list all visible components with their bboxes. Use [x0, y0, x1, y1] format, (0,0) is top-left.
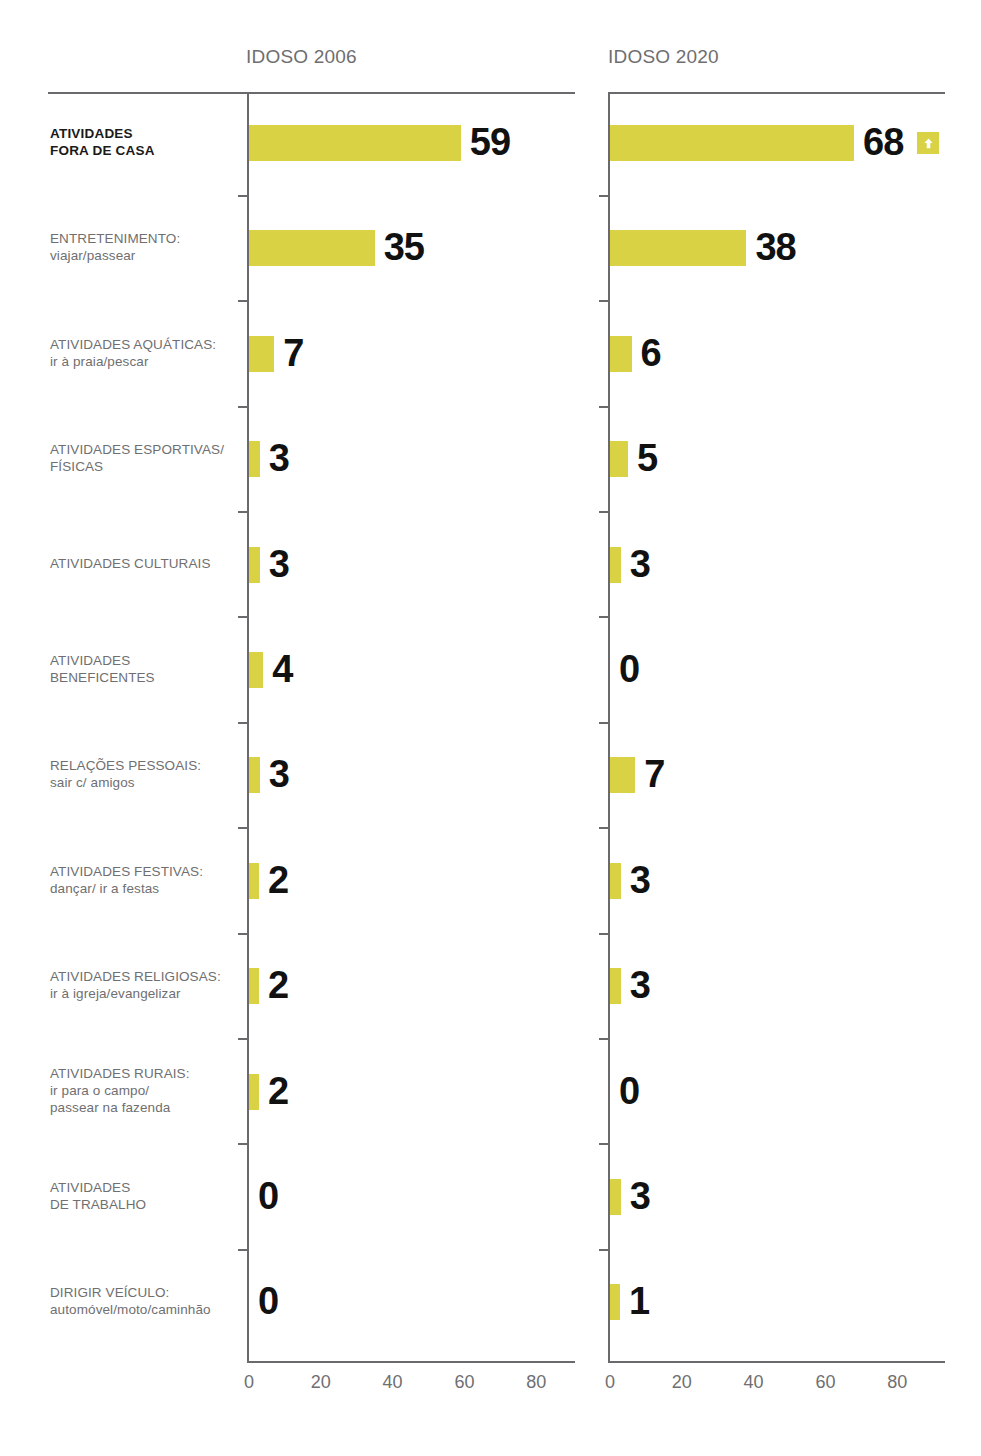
bar-value: 1: [629, 1282, 649, 1320]
y-axis-tick: [599, 616, 610, 618]
y-axis-tick: [599, 722, 610, 724]
bar-value: 35: [384, 228, 424, 266]
x-tick-label: 80: [877, 1372, 917, 1393]
row-label-line: ATIVIDADES CULTURAIS: [50, 555, 240, 572]
row-label-line: ir à igreja/evangelizar: [50, 985, 240, 1002]
bar-value: 7: [644, 755, 664, 793]
y-axis-tick: [599, 406, 610, 408]
bar: [610, 230, 746, 266]
row-label-line: RELAÇÕES PESSOAIS:: [50, 757, 240, 774]
bar: [610, 1284, 620, 1320]
bar: [249, 863, 259, 899]
row-label: ATIVIDADESFORA DE CASA: [50, 125, 240, 159]
bar: [610, 441, 628, 477]
row-label: ATIVIDADES CULTURAIS: [50, 555, 240, 572]
row-label-line: ATIVIDADES: [50, 652, 240, 669]
row-label-line: ir à praia/pescar: [50, 353, 240, 370]
row-label-line: DE TRABALHO: [50, 1196, 240, 1213]
y-axis-tick: [599, 1038, 610, 1040]
y-axis-tick: [238, 616, 249, 618]
bar-value: 3: [269, 439, 289, 477]
row-label-line: BENEFICENTES: [50, 669, 240, 686]
bar: [249, 1074, 259, 1110]
bar-value: 3: [630, 966, 650, 1004]
bar-value: 6: [641, 334, 661, 372]
bar-value: 4: [272, 650, 292, 688]
bar: [610, 336, 632, 372]
x-tick-label: 80: [516, 1372, 556, 1393]
y-axis-tick: [238, 933, 249, 935]
bar-value: 59: [470, 123, 510, 161]
row-label-line: ATIVIDADES: [50, 1179, 240, 1196]
y-axis-tick: [238, 1038, 249, 1040]
bar-value: 68: [863, 123, 903, 161]
row-label: DIRIGIR VEÍCULO:automóvel/moto/caminhão: [50, 1284, 240, 1318]
bar-value: 3: [630, 861, 650, 899]
bar: [249, 652, 263, 688]
y-axis-tick: [599, 1249, 610, 1251]
y-axis-tick: [599, 827, 610, 829]
row-label: ATIVIDADES ESPORTIVAS/FÍSICAS: [50, 441, 240, 475]
row-label-line: ENTRETENIMENTO:: [50, 230, 240, 247]
x-axis-right: [608, 1361, 945, 1363]
bar: [610, 968, 621, 1004]
y-axis-tick: [238, 1143, 249, 1145]
row-label: ENTRETENIMENTO:viajar/passear: [50, 230, 240, 264]
row-label-line: ATIVIDADES RURAIS:: [50, 1065, 240, 1082]
row-label: ATIVIDADES FESTIVAS:dançar/ ir a festas: [50, 863, 240, 897]
y-axis-tick: [238, 195, 249, 197]
row-label: ATIVIDADES RURAIS:ir para o campo/passea…: [50, 1065, 240, 1116]
y-axis-tick: [238, 511, 249, 513]
x-axis-left: [247, 1361, 575, 1363]
panel-title-2020: IDOSO 2020: [608, 46, 719, 68]
bar: [249, 757, 260, 793]
row-label: RELAÇÕES PESSOAIS:sair c/ amigos: [50, 757, 240, 791]
bar: [610, 863, 621, 899]
y-axis-tick: [599, 300, 610, 302]
bar: [249, 547, 260, 583]
bar-value: 3: [269, 755, 289, 793]
x-tick-label: 20: [301, 1372, 341, 1393]
x-tick-label: 0: [229, 1372, 269, 1393]
row-label-line: automóvel/moto/caminhão: [50, 1301, 240, 1318]
row-label: ATIVIDADES RELIGIOSAS:ir à igreja/evange…: [50, 968, 240, 1002]
bar-value: 0: [619, 650, 639, 688]
x-tick-label: 40: [734, 1372, 774, 1393]
bar: [249, 125, 461, 161]
y-axis-tick: [238, 1249, 249, 1251]
x-tick-label: 0: [590, 1372, 630, 1393]
row-label-line: passear na fazenda: [50, 1099, 240, 1116]
bar: [610, 1179, 621, 1215]
bar-value: 7: [283, 334, 303, 372]
bar-value: 38: [755, 228, 795, 266]
bar: [249, 968, 259, 1004]
row-label-line: FÍSICAS: [50, 458, 240, 475]
bar-value: 3: [630, 545, 650, 583]
row-label-line: ATIVIDADES AQUÁTICAS:: [50, 336, 240, 353]
bar-value: 2: [268, 861, 288, 899]
bar-value: 3: [630, 1177, 650, 1215]
row-label: ATIVIDADESDE TRABALHO: [50, 1179, 240, 1213]
row-label-line: DIRIGIR VEÍCULO:: [50, 1284, 240, 1301]
panel-top-rule-right: [608, 92, 945, 94]
panel-top-rule-left: [48, 92, 575, 94]
bar-value: 3: [269, 545, 289, 583]
y-axis-tick: [238, 406, 249, 408]
x-tick-label: 60: [444, 1372, 484, 1393]
row-label-line: viajar/passear: [50, 247, 240, 264]
bar-value: 0: [258, 1177, 278, 1215]
panel-title-2006: IDOSO 2006: [246, 46, 357, 68]
row-label-line: ATIVIDADES RELIGIOSAS:: [50, 968, 240, 985]
bar-value: 0: [258, 1282, 278, 1320]
row-label-line: ATIVIDADES ESPORTIVAS/: [50, 441, 240, 458]
y-axis-tick: [599, 933, 610, 935]
y-axis-tick: [238, 722, 249, 724]
y-axis-tick: [238, 300, 249, 302]
row-label-line: ir para o campo/: [50, 1082, 240, 1099]
y-axis-tick: [599, 1143, 610, 1145]
row-label-line: sair c/ amigos: [50, 774, 240, 791]
row-label-line: dançar/ ir a festas: [50, 880, 240, 897]
y-axis-right: [608, 92, 610, 1362]
bar-value: 5: [637, 439, 657, 477]
arrow-up-icon: [917, 132, 939, 154]
